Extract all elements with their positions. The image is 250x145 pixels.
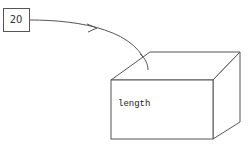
- diagram-canvas: [0, 0, 250, 145]
- variable-box-3d: [111, 52, 240, 139]
- variable-name-label: length: [118, 99, 150, 109]
- value-label: 20: [3, 8, 29, 31]
- arrow-curve: [30, 20, 148, 70]
- box-front-face: [111, 80, 213, 139]
